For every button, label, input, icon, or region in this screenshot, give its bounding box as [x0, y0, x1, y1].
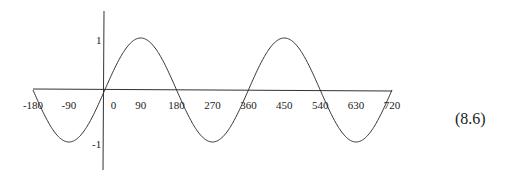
x-tick-label: 0	[111, 99, 117, 111]
x-tick-labels: -180-90090180270360450540630720	[23, 99, 401, 111]
y-tick-label-neg1: -1	[92, 138, 101, 150]
y-tick-label-1: 1	[96, 34, 102, 46]
y-axis	[103, 11, 104, 170]
x-tick-label: 450	[276, 99, 293, 111]
x-axis	[33, 89, 392, 91]
x-tick-label: 360	[240, 99, 257, 111]
x-tick-label: -180	[23, 99, 44, 111]
x-tick-label: 630	[348, 99, 365, 111]
x-tick-label: -90	[62, 99, 77, 111]
x-tick-label: 720	[384, 99, 401, 111]
x-tick-label: 180	[168, 99, 185, 111]
sine-chart: -180-90090180270360450540630720 1 -1 (8.…	[0, 0, 507, 175]
x-tick-label: 90	[135, 99, 147, 111]
x-tick-label: 270	[204, 99, 221, 111]
equation-number: (8.6)	[455, 110, 486, 128]
x-tick-label: 540	[312, 99, 329, 111]
